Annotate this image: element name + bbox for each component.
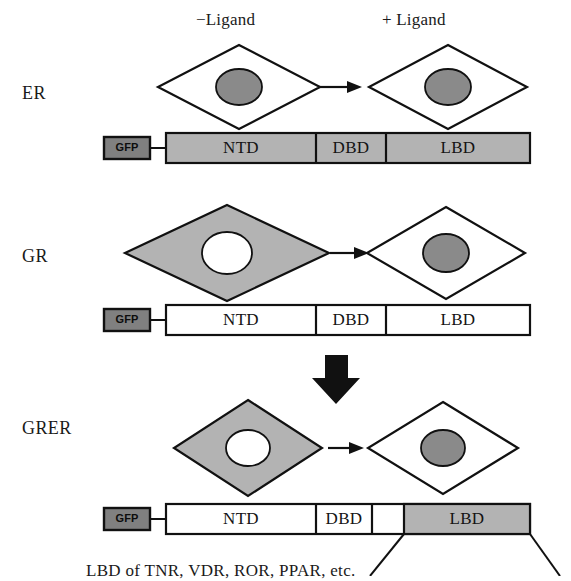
down-arrow-shape <box>312 355 360 404</box>
gfp-tag-box <box>104 309 150 331</box>
transition-arrow-er <box>318 81 362 93</box>
arrow-head <box>349 442 364 454</box>
nucleus-ellipse <box>216 69 262 105</box>
construct-derivation-arrow <box>312 355 360 404</box>
cell-grer-plus-ligand <box>368 402 518 494</box>
figure-caption: LBD of TNR, VDR, ROR, PPAR, etc. <box>86 561 556 581</box>
nucleus-ellipse <box>226 430 270 466</box>
bar-outline <box>166 305 530 335</box>
cell-grer-minus-ligand <box>174 400 322 496</box>
transition-arrow-gr <box>330 247 369 259</box>
nucleus-ellipse <box>425 69 471 105</box>
cell-gr-plus-ligand <box>367 207 525 299</box>
arrow-head <box>347 81 362 93</box>
nucleus-ellipse <box>423 234 469 272</box>
gfp-tag-box <box>104 137 150 159</box>
cell-er-plus-ligand <box>369 45 527 129</box>
transition-arrow-grer <box>328 442 364 454</box>
construct-bar-gr <box>104 305 530 335</box>
construct-bar-er <box>104 133 530 163</box>
swapped-lbd-segment <box>404 504 530 534</box>
cell-er-minus-ligand <box>158 45 320 129</box>
bar-outline <box>166 133 530 163</box>
cell-gr-minus-ligand <box>125 205 329 301</box>
nucleus-ellipse <box>421 430 465 466</box>
nucleus-ellipse <box>202 232 252 274</box>
gfp-tag-box <box>104 508 150 530</box>
